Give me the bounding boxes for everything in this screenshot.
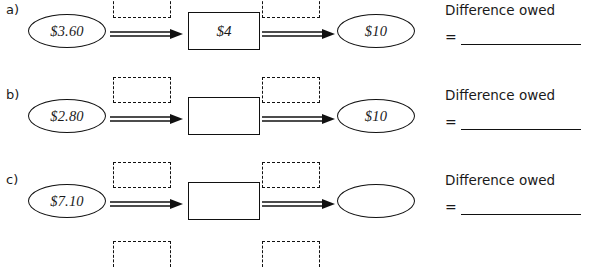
arrow-c2 — [262, 198, 336, 210]
worksheet-row-c: c) $7.10 Difference — [0, 170, 613, 240]
dashed-operation-box-c1[interactable] — [113, 162, 171, 188]
answer-blank-b[interactable] — [461, 129, 581, 130]
arrow-c1 — [110, 198, 184, 210]
difference-label-b: Difference owed — [445, 87, 555, 103]
answer-line-a[interactable]: = — [445, 30, 581, 45]
end-value-a: $10 — [365, 23, 387, 40]
dashed-operation-box-next2[interactable] — [262, 241, 320, 267]
dashed-operation-box-b1[interactable] — [113, 77, 171, 103]
arrow-a1 — [110, 28, 184, 40]
dashed-operation-box-a1[interactable] — [113, 0, 171, 18]
difference-label-a: Difference owed — [445, 2, 555, 18]
end-oval-b: $10 — [337, 99, 415, 133]
start-oval-b: $2.80 — [28, 99, 106, 133]
worksheet-row-b: b) $2.80 $10 Differen — [0, 85, 613, 155]
answer-blank-c[interactable] — [461, 214, 581, 215]
equals-sign-a: = — [445, 30, 457, 45]
arrow-a2 — [262, 28, 336, 40]
dashed-operation-box-c2[interactable] — [262, 162, 320, 188]
end-value-b: $10 — [365, 108, 387, 125]
start-oval-c: $7.10 — [28, 184, 106, 218]
dashed-operation-box-next1[interactable] — [113, 241, 171, 267]
start-value-c: $7.10 — [50, 193, 84, 210]
difference-label-c: Difference owed — [445, 172, 555, 188]
answer-blank-a[interactable] — [461, 44, 581, 45]
start-oval-a: $3.60 — [28, 14, 106, 48]
row-label-c: c) — [6, 172, 18, 187]
end-oval-c[interactable] — [337, 184, 415, 218]
dashed-operation-box-b2[interactable] — [262, 77, 320, 103]
arrow-b1 — [110, 113, 184, 125]
middle-box-a[interactable]: $4 — [188, 12, 260, 50]
equals-sign-b: = — [445, 115, 457, 130]
dashed-operation-box-a2[interactable] — [262, 0, 320, 18]
start-value-a: $3.60 — [50, 23, 84, 40]
end-oval-a: $10 — [337, 14, 415, 48]
equals-sign-c: = — [445, 200, 457, 215]
arrow-b2 — [262, 113, 336, 125]
middle-box-b[interactable] — [188, 97, 260, 135]
answer-line-b[interactable]: = — [445, 115, 581, 130]
worksheet-row-a: a) $3.60 $4 $10 Differ — [0, 0, 613, 70]
row-label-b: b) — [6, 87, 19, 102]
row-label-a: a) — [6, 2, 19, 17]
middle-value-a: $4 — [217, 23, 232, 40]
answer-line-c[interactable]: = — [445, 200, 581, 215]
start-value-b: $2.80 — [50, 108, 84, 125]
middle-box-c[interactable] — [188, 182, 260, 220]
